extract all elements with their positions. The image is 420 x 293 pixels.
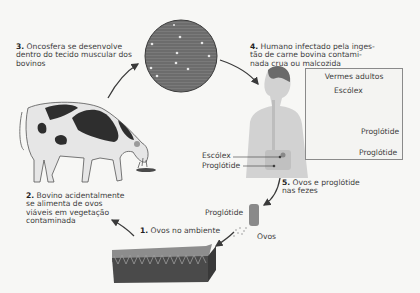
- human-proglottid-label: Proglótide: [202, 162, 240, 171]
- human-scolex-label: Escólex: [202, 152, 231, 161]
- step-5-label: 5. Ovos e proglótide nas fezes: [282, 179, 360, 196]
- soil-grass-icon: [112, 244, 216, 283]
- step-text-line: contaminada: [26, 216, 76, 225]
- human-figure-icon: [246, 66, 308, 178]
- cow-icon: [20, 102, 156, 182]
- inset-proglottid-label-bottom: Proglótide: [359, 149, 397, 158]
- adult-worms-inset: Vermes adultos Escólex Proglótide Progló…: [305, 68, 403, 160]
- step-text-line: nas fezes: [282, 186, 318, 195]
- step-4-label: 4. Humano infectado pela inges- tão de c…: [250, 43, 375, 68]
- feces-proglottid-label: Proglótide: [205, 209, 243, 218]
- step-2-label: 2. Bovino acidentalmente se alimenta de …: [26, 192, 124, 226]
- step-text-line: nada crua ou malcozida: [250, 59, 341, 68]
- step-number: 1.: [140, 226, 148, 235]
- step-1-label: 1. Ovos no ambiente: [140, 227, 220, 235]
- inset-scolex-label: Escólex: [334, 87, 363, 96]
- step-text-line: Ovos no ambiente: [151, 226, 220, 235]
- eggs-label: Ovos: [257, 233, 276, 242]
- step-3-label: 3. Oncosfera se desenvolve dentro do tec…: [16, 43, 132, 68]
- inset-proglottid-label: Proglótide: [361, 128, 399, 137]
- step-text-line: bovinos: [16, 59, 46, 68]
- inset-title: Vermes adultos: [306, 72, 402, 81]
- muscle-tissue-icon: [145, 20, 217, 92]
